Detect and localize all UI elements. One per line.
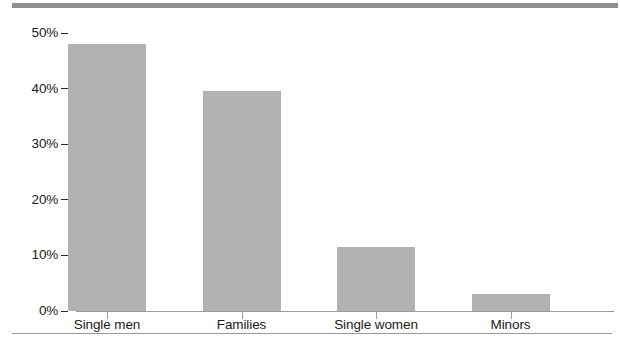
y-axis-tick: 40%: [0, 81, 72, 97]
y-axis-tick-dash: [61, 311, 68, 312]
y-axis-tick: 30%: [0, 136, 72, 152]
y-axis-tick-dash: [61, 33, 68, 34]
y-axis-tick-dash: [61, 255, 68, 256]
bar[interactable]: [337, 247, 415, 311]
y-axis-tick: 0%: [0, 303, 72, 319]
x-axis-category-label: Families: [217, 316, 266, 334]
y-axis-tick-label: 20%: [32, 192, 58, 208]
x-axis-category-label: Single women: [334, 316, 418, 334]
bar[interactable]: [203, 91, 281, 311]
y-axis-tick: 10%: [0, 247, 72, 263]
bar[interactable]: [472, 294, 550, 311]
x-axis-line: [76, 311, 614, 312]
plot-area: 0%10%20%30%40%50% Single menFamiliesSing…: [0, 0, 620, 348]
y-axis-tick-dash: [61, 199, 68, 200]
bar-chart-figure: 0%10%20%30%40%50% Single menFamiliesSing…: [0, 0, 620, 348]
y-axis-tick-label: 30%: [32, 136, 58, 152]
y-axis-tick-label: 40%: [32, 81, 58, 97]
y-axis-tick-dash: [61, 88, 68, 89]
y-axis-tick-label: 0%: [39, 303, 58, 319]
x-axis-category-label: Minors: [491, 316, 531, 334]
y-axis-tick-dash: [61, 144, 68, 145]
y-axis-tick-label: 50%: [32, 25, 58, 41]
y-axis-tick-label: 10%: [32, 247, 58, 263]
bar[interactable]: [68, 44, 146, 311]
x-axis-category-label: Single men: [74, 316, 141, 334]
bottom-divider-rule: [12, 333, 612, 334]
y-axis-tick: 50%: [0, 25, 72, 41]
y-axis-tick: 20%: [0, 192, 72, 208]
